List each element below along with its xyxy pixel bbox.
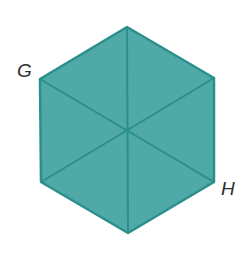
vertex-label-h: H	[221, 178, 235, 199]
vertex-label-g: G	[17, 60, 32, 81]
hexagon-diagram: G H	[0, 0, 249, 261]
